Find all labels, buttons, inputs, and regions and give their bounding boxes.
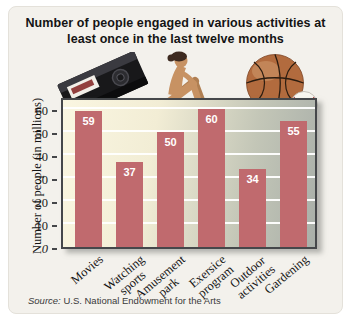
bar-value-label: 37 [116, 166, 143, 178]
y-axis-title: Number of people (in millions) [30, 98, 45, 254]
bar: 55 [280, 121, 307, 248]
bar: 50 [157, 132, 184, 247]
y-tick-mark [52, 110, 57, 112]
bar-value-label: 55 [280, 125, 307, 137]
bar-value-label: 59 [75, 115, 102, 127]
y-tick-mark [52, 248, 57, 250]
bar: 34 [239, 169, 266, 247]
figure: Number of people engaged in various acti… [0, 0, 351, 324]
chart-title: Number of people engaged in various acti… [15, 15, 336, 48]
source-prefix: Source: [28, 295, 61, 306]
bar-value-label: 60 [198, 113, 225, 125]
y-tick-mark [52, 156, 57, 158]
y-tick-mark [52, 133, 57, 135]
source-note: Source: U.S. National Endowment for the … [28, 295, 221, 306]
bar: 59 [75, 111, 102, 247]
bar: 37 [116, 162, 143, 247]
y-tick-mark [52, 179, 57, 181]
bar-value-label: 50 [157, 136, 184, 148]
y-tick-mark [52, 225, 57, 227]
bar: 60 [198, 109, 225, 247]
gridline [63, 107, 315, 109]
bar-value-label: 34 [239, 173, 266, 185]
y-tick-mark [52, 202, 57, 204]
plot-area: 593750603455 [61, 98, 317, 249]
y-axis-ticks: 0102030405060 [0, 98, 57, 249]
source-text: U.S. National Endowment for the Arts [61, 295, 221, 306]
